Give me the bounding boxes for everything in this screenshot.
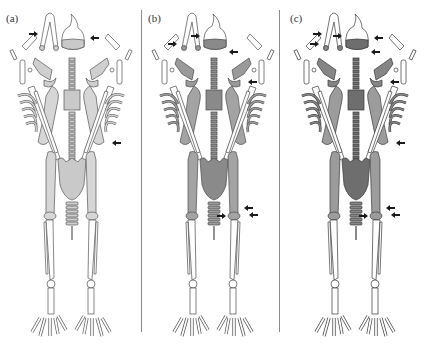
vertebra xyxy=(69,116,75,119)
caudal-vertebra xyxy=(208,206,220,209)
vertebra xyxy=(69,74,75,77)
vertebra xyxy=(69,148,75,151)
caudal-vertebra xyxy=(66,214,78,217)
sesamoid xyxy=(394,68,398,72)
knee xyxy=(370,212,382,220)
caudal-vertebra xyxy=(208,210,220,213)
vertebra xyxy=(211,74,217,77)
vertebra xyxy=(211,116,217,119)
vertebra xyxy=(211,152,217,155)
vertebra xyxy=(211,86,217,89)
caudal-vertebra xyxy=(208,202,220,205)
vertebra xyxy=(353,152,359,155)
knee xyxy=(228,212,240,220)
tarsal xyxy=(87,280,95,288)
cranium-base xyxy=(62,39,84,50)
femur xyxy=(86,152,96,217)
metacarpal xyxy=(162,60,167,84)
caudal-vertebra xyxy=(66,210,78,213)
vertebra xyxy=(211,144,217,147)
vertebra xyxy=(353,120,359,123)
arrow-icon xyxy=(229,49,238,55)
arrow-icon xyxy=(374,35,383,41)
caudal-vertebra xyxy=(350,206,362,209)
vertebra xyxy=(69,124,75,127)
sternum-block xyxy=(206,90,222,110)
vertebra xyxy=(353,112,359,115)
vertebra xyxy=(211,70,217,73)
carpal xyxy=(409,50,416,60)
arrow-icon xyxy=(90,35,99,41)
pelvis xyxy=(58,158,86,200)
arrow-icon xyxy=(390,79,399,85)
vertebra xyxy=(69,136,75,139)
vertebra xyxy=(69,66,75,69)
vertebra xyxy=(211,148,217,151)
femur xyxy=(330,152,340,217)
clavicle xyxy=(389,34,404,50)
vertebra xyxy=(211,62,217,65)
scapula xyxy=(33,58,52,80)
pelvis xyxy=(200,158,228,200)
metatarsal xyxy=(230,288,236,314)
vertebra xyxy=(353,116,359,119)
arrow-icon xyxy=(248,79,257,85)
vertebra xyxy=(353,140,359,143)
knee xyxy=(186,212,198,220)
arrow-icon xyxy=(244,205,253,211)
vertebra xyxy=(211,66,217,69)
tarsal xyxy=(47,280,55,288)
vertebra xyxy=(353,136,359,139)
femur xyxy=(46,152,56,217)
arrow-icon xyxy=(112,140,121,146)
vertebra xyxy=(353,78,359,81)
caudal-vertebra xyxy=(350,202,362,205)
vertebra xyxy=(69,140,75,143)
clavicle xyxy=(105,34,120,50)
caudal-vertebra xyxy=(66,222,78,225)
sesamoid xyxy=(110,68,114,72)
metatarsal xyxy=(48,288,54,314)
metatarsal xyxy=(88,288,94,314)
vertebra xyxy=(69,112,75,115)
arrow-icon xyxy=(396,140,405,146)
femur xyxy=(370,152,380,217)
panel-divider xyxy=(279,10,280,332)
skeleton-drawing xyxy=(284,0,426,347)
caudal-vertebra xyxy=(66,218,78,221)
knee xyxy=(86,212,98,220)
sesamoid xyxy=(252,68,256,72)
vertebra xyxy=(211,78,217,81)
arrow-icon xyxy=(391,212,400,218)
scapula xyxy=(374,58,393,80)
caudal-vertebra xyxy=(208,222,220,225)
skeleton-panel-c: (c) xyxy=(284,0,426,347)
caudal-vertebra xyxy=(350,222,362,225)
sesamoid xyxy=(28,68,32,72)
vertebra xyxy=(211,128,217,131)
skeleton-drawing xyxy=(142,0,284,347)
panel-divider xyxy=(141,10,142,332)
clavicle xyxy=(247,34,262,50)
arrow-icon xyxy=(249,212,258,218)
metacarpal xyxy=(401,60,406,84)
vertebra xyxy=(353,74,359,77)
skeleton-panel-b: (b) xyxy=(142,0,284,347)
mandible xyxy=(182,13,200,48)
vertebra xyxy=(69,70,75,73)
scapula xyxy=(90,58,109,80)
vertebra xyxy=(353,148,359,151)
vertebra xyxy=(353,144,359,147)
scapula xyxy=(175,58,194,80)
vertebra xyxy=(353,82,359,85)
pelvis xyxy=(342,158,370,200)
vertebra xyxy=(69,152,75,155)
caudal-vertebra xyxy=(350,218,362,221)
knee xyxy=(44,212,56,220)
skeleton-drawing xyxy=(0,0,142,347)
tarsal xyxy=(189,280,197,288)
vertebra xyxy=(211,112,217,115)
metacarpal xyxy=(259,60,264,84)
carpal xyxy=(152,50,159,60)
vertebra xyxy=(211,136,217,139)
